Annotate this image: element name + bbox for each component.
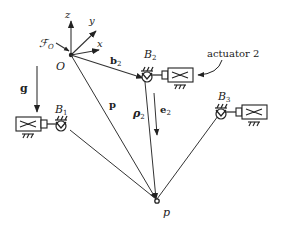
x-axis-label: x bbox=[97, 38, 103, 49]
actuator-1 bbox=[16, 117, 47, 138]
gravity-label: g bbox=[20, 82, 28, 95]
joint-B2 bbox=[141, 67, 162, 82]
leg-1 bbox=[70, 130, 156, 199]
joint-B2-label: B2 bbox=[143, 48, 157, 62]
e2-vector bbox=[154, 93, 157, 135]
y-axis-label: y bbox=[88, 15, 95, 26]
actuator-2-annotation: actuator 2 bbox=[207, 48, 259, 59]
end-effector-label: p bbox=[163, 206, 170, 219]
frame-label: ℱO bbox=[39, 37, 54, 51]
actuator-3 bbox=[236, 105, 267, 126]
joint-B2-circle bbox=[142, 72, 152, 82]
joint-B1-label: B1 bbox=[54, 103, 68, 117]
z-axis-label: z bbox=[64, 9, 71, 20]
e2-label: e2 bbox=[160, 104, 171, 117]
b2-label: b2 bbox=[110, 55, 121, 68]
actuator-2-pointer bbox=[198, 60, 222, 75]
actuator-2 bbox=[162, 68, 193, 89]
parallel-robot-diagram: z y x ℱO O g b2 p ρ2 e2 p B1 bbox=[0, 0, 289, 227]
end-effector-point bbox=[155, 199, 159, 203]
frame-pointer bbox=[56, 43, 69, 51]
rho2-label: ρ2 bbox=[132, 107, 145, 121]
origin-label: O bbox=[56, 60, 65, 73]
b2-vector bbox=[71, 55, 143, 78]
joint-B3 bbox=[215, 104, 236, 119]
joint-B1 bbox=[47, 116, 67, 131]
leg-3 bbox=[157, 116, 218, 199]
p-vector-label: p bbox=[109, 99, 116, 110]
joint-B3-circle bbox=[216, 109, 226, 119]
joint-B1-circle bbox=[56, 121, 66, 131]
coordinate-frame bbox=[56, 21, 99, 55]
joint-B3-label: B3 bbox=[217, 90, 231, 104]
